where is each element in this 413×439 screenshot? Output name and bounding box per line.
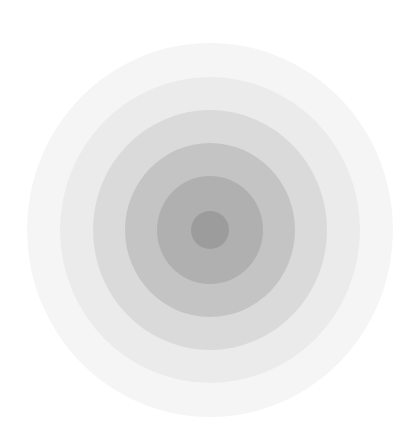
ring-6-center	[191, 211, 229, 249]
